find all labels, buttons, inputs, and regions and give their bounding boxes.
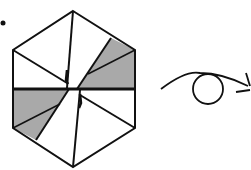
diagram-canvas	[0, 0, 251, 170]
arrow-head-lower	[236, 90, 250, 92]
upper-left-diagonal	[13, 50, 67, 83]
eye-icon	[161, 73, 250, 104]
upper-vertical-line	[67, 11, 73, 88]
bullet-dot	[1, 21, 6, 26]
arrow-head-upper	[246, 73, 250, 86]
eye-pupil-circle	[193, 74, 223, 104]
lower-right-diagonal	[80, 95, 135, 128]
hexagon-figure	[13, 11, 135, 167]
lower-vertical-line	[73, 90, 80, 167]
